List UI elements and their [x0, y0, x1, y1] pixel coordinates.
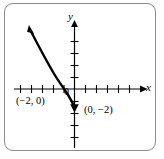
curve-start-arrow-icon: [27, 25, 34, 34]
y-axis-label: y: [68, 11, 73, 22]
curve-end-arrow-icon: [70, 104, 79, 112]
origin-label: 0: [64, 87, 69, 97]
x-axis-label: x: [146, 82, 151, 93]
x-intercept-label: (−2, 0): [16, 96, 45, 107]
graph-figure: x y 0 (−2, 0) (0, −2): [0, 0, 164, 159]
coordinate-plane: [0, 0, 164, 159]
y-intercept-label: (0, −2): [84, 105, 113, 116]
